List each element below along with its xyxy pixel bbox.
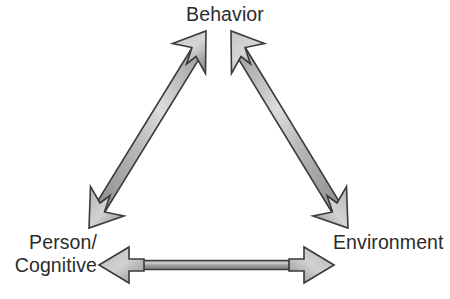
node-label-behavior: Behavior [0, 3, 450, 26]
node-label-person-cognitive-line1: Person/ [29, 231, 97, 253]
node-label-person-cognitive: Person/Cognitive [0, 231, 97, 276]
arrow-shaft [125, 261, 308, 270]
node-label-environment: Environment [333, 231, 450, 254]
node-label-person-cognitive-line2: Cognitive [15, 254, 97, 276]
connector-behavior-environment [231, 31, 348, 228]
arrowhead-right [289, 247, 334, 283]
connector-person-cognitive-environment [99, 247, 334, 283]
arrow-shaft [236, 47, 341, 213]
arrow-shaft [96, 47, 202, 213]
connector-behavior-person-cognitive [89, 31, 206, 228]
arrowhead-left [99, 247, 144, 283]
diagram-canvas: Behavior Person/Cognitive Environment [0, 0, 450, 299]
